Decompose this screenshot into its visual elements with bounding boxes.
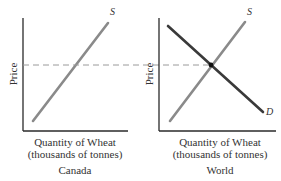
canada-panel — [23, 18, 128, 131]
world-supply-label: S — [247, 6, 252, 17]
equilibrium-point — [209, 63, 214, 68]
world-y-axis-label: Price — [143, 59, 155, 89]
canada-supply-curve — [33, 23, 108, 121]
canada-supply-label: S — [110, 6, 115, 17]
canada-x-axis-label-line2: (thousands of tonnes) — [20, 148, 130, 160]
world-x-axis-label-line2: (thousands of tonnes) — [160, 148, 280, 160]
world-panel-title: World — [160, 164, 280, 176]
canada-y-axis-label: Price — [7, 59, 19, 89]
world-x-axis-label-line1: Quantity of Wheat — [160, 136, 280, 148]
canada-x-axis-label-line1: Quantity of Wheat — [20, 136, 130, 148]
canada-panel-title: Canada — [20, 164, 130, 176]
world-demand-curve — [168, 26, 263, 112]
world-demand-label: D — [266, 106, 273, 117]
world-panel — [159, 18, 276, 131]
